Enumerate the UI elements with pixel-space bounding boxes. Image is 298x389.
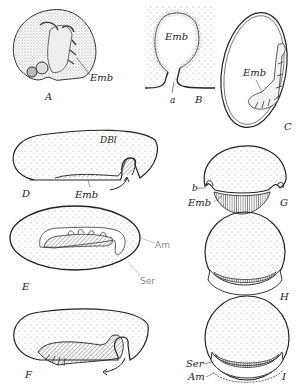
embryo-development-diagram: Emb A Emb a B Emb C DBl Emb D [0,0,298,389]
panel-label-c: C [284,121,292,132]
panel-label-h: H [279,291,289,302]
annotation-emb-b: Emb [164,31,188,42]
panel-label-b: B [194,94,202,105]
annotation-emb-a: Emb [89,72,113,83]
annotation-am-e: Am [155,240,170,250]
panel-b: Emb a B [145,5,215,105]
annotation-a-b: a [170,95,175,105]
panel-c: Emb C [212,7,295,132]
panel-label-e: E [21,281,30,292]
annotation-am-i: Am [187,371,205,382]
panel-label-f: F [24,369,33,380]
panel-label-g: G [280,197,288,208]
annotation-dbl-d: DBl [99,135,117,145]
panel-a: Emb A [13,10,113,102]
panel-e: Am Ser E [10,206,170,292]
annotation-emb-g: Emb [187,197,211,208]
panel-g: b Emb G [187,146,288,214]
annotation-emb-c: Emb [242,67,266,78]
panel-label-a: A [44,91,52,102]
annotation-ser-e: Ser [140,276,155,286]
panel-i: Ser Am I [186,296,289,382]
panel-f: F [14,309,149,380]
annotation-ser-i: Ser [186,358,205,369]
panel-d: DBl Emb D [13,130,157,200]
annotation-emb-d: Emb [74,189,98,200]
panel-h: H [205,212,289,302]
panel-label-d: D [21,188,30,199]
panel-label-i: I [281,371,287,382]
